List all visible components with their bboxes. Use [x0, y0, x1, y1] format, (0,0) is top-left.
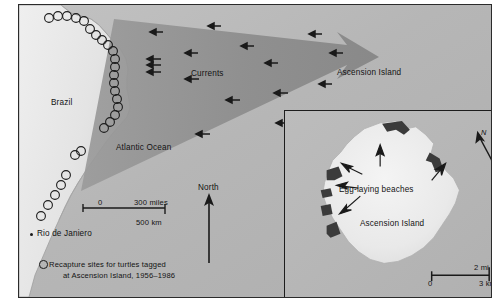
label-north: North [198, 183, 219, 193]
inset-map-ascension-island [284, 110, 492, 298]
label-inset-north: N [481, 128, 487, 137]
inset-scale-label-zero: 0 [428, 279, 432, 288]
label-egg-laying-beaches: Egg-laying beaches [339, 185, 414, 195]
inset-scale-label-miles: 2 mi [474, 263, 489, 272]
inset-scale-label-km: 3 km [479, 279, 492, 288]
label-ascension-island-main: Ascension Island [337, 68, 401, 78]
scale-label-miles: 300 miles [134, 198, 168, 207]
label-brazil: Brazil [51, 98, 72, 108]
label-rio-de-janeiro: Rio de Janiero [37, 229, 92, 239]
legend-open-circle-icon [39, 260, 48, 269]
inset-map-canvas [285, 111, 492, 298]
legend-text-line-2: at Ascension Island, 1956–1986 [63, 271, 175, 280]
scale-label-zero: 0 [98, 198, 102, 207]
turtle-migration-map-figure: Brazil Atlantic Ocean Currents Ascension… [0, 0, 498, 303]
main-map-frame: Brazil Atlantic Ocean Currents Ascension… [18, 4, 492, 298]
label-currents: Currents [191, 69, 224, 79]
label-ascension-island-inset: Ascension Island [360, 219, 424, 229]
legend-text-line-1: Recapture sites for turtles tagged [49, 260, 166, 269]
label-atlantic-ocean: Atlantic Ocean [116, 143, 171, 153]
scale-label-km: 500 km [136, 218, 162, 227]
